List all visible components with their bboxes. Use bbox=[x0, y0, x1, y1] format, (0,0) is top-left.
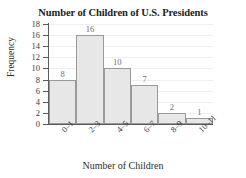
bar-value-label: 2 bbox=[158, 103, 185, 112]
chart-title: Number of Children of U.S. Presidents bbox=[0, 7, 246, 18]
y-tick-label: 6 bbox=[36, 87, 40, 96]
y-tick-mark bbox=[43, 124, 49, 125]
y-tick-label: 10 bbox=[32, 64, 41, 73]
y-tick-label: 4 bbox=[36, 98, 40, 107]
y-tick-label: 18 bbox=[32, 20, 41, 29]
y-tick-label: 2 bbox=[36, 109, 40, 118]
y-tick-label: 8 bbox=[36, 76, 40, 85]
y-tick-label: 0 bbox=[36, 120, 40, 129]
plot-area: 81610721 bbox=[49, 24, 213, 124]
bar-value-label: 16 bbox=[76, 25, 103, 34]
y-tick-label: 12 bbox=[32, 53, 41, 62]
y-axis-title: Frequency bbox=[6, 22, 16, 92]
bar-value-label: 8 bbox=[49, 70, 76, 79]
y-tick-label: 16 bbox=[32, 31, 41, 40]
y-tick-label: 14 bbox=[32, 42, 41, 51]
bar-value-labels: 81610721 bbox=[49, 24, 213, 124]
bar-value-label: 10 bbox=[104, 58, 131, 67]
histogram-figure: Number of Children of U.S. Presidents 02… bbox=[0, 0, 246, 178]
x-axis-title: Number of Children bbox=[0, 160, 246, 171]
bar-value-label: 7 bbox=[131, 75, 158, 84]
